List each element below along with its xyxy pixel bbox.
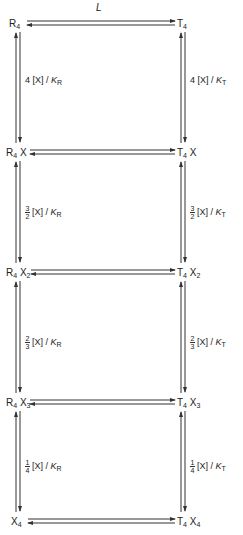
forward-arrow-row-3-arrowhead <box>170 398 176 402</box>
forward-arrow-row-2-arrowhead <box>170 268 176 272</box>
fraction-denominator: 4 <box>25 467 30 474</box>
ligand-concentration: [X] / <box>32 207 51 217</box>
rate-fraction: 23 <box>190 335 195 350</box>
constant-subscript: R <box>56 341 61 348</box>
state-t-0: T4 <box>177 19 187 30</box>
rate-label-t-0: 4 [X] / KT <box>190 75 226 85</box>
state-r-0: R4 <box>9 19 20 30</box>
dissociation-arrow-right-2-arrowhead <box>179 281 183 287</box>
fraction-numerator: 3 <box>25 205 30 213</box>
rate-label-t-1: 32[X] / KT <box>190 205 226 220</box>
fraction-denominator: 3 <box>190 343 195 350</box>
state-t-1: T4 X <box>177 148 196 159</box>
fraction-numerator: 2 <box>190 335 195 343</box>
state-subscript: 4 <box>183 23 187 30</box>
ligand-concentration: [X] / <box>33 75 52 85</box>
forward-arrow-row-1-arrowhead <box>170 148 176 152</box>
forward-arrow-row-4-arrowhead <box>170 517 176 521</box>
state-subscript: 4 <box>183 402 187 409</box>
ligand-count: 2 <box>27 272 31 279</box>
rate-label-r-2: 23[X] / KR <box>25 335 62 350</box>
state-t-2: T4 X2 <box>177 268 200 279</box>
fraction-numerator: 2 <box>25 335 30 343</box>
dissociation-arrow-left-1-arrowhead <box>14 161 18 167</box>
fraction-denominator: 3 <box>25 343 30 350</box>
constant-subscript: R <box>57 79 62 86</box>
ligand-concentration: [X] / <box>32 337 51 347</box>
binding-arrow-right-2-arrowhead <box>183 387 187 393</box>
fraction-numerator: 1 <box>190 459 195 467</box>
state-subscript: 4 <box>183 521 187 528</box>
dissociation-arrow-left-0-arrowhead <box>14 32 18 38</box>
fraction-denominator: 2 <box>25 213 30 220</box>
binding-arrow-left-2-arrowhead <box>18 387 22 393</box>
rate-label-r-3: 14[X] / KR <box>25 459 62 474</box>
rate-fraction: 23 <box>25 335 30 350</box>
ligand-symbol: X <box>187 147 196 158</box>
rate-label-r-1: 32[X] / KR <box>25 205 62 220</box>
state-subscript: 4 <box>183 272 187 279</box>
ligand-symbol: X <box>17 397 26 408</box>
ligand-concentration: [X] / <box>197 337 216 347</box>
ligand-count: 2 <box>196 272 200 279</box>
rate-fraction: 32 <box>190 205 195 220</box>
dissociation-arrow-left-2-arrowhead <box>14 281 18 287</box>
fraction-denominator: 4 <box>190 467 195 474</box>
ligand-concentration: [X] / <box>197 207 216 217</box>
rate-fraction: 14 <box>190 459 195 474</box>
ligand-count: 4 <box>196 521 200 528</box>
ligand-symbol: X <box>17 147 26 158</box>
ligand-concentration: [X] / <box>32 461 51 471</box>
state-r-3: R4 X3 <box>6 398 31 409</box>
binding-arrow-right-3-arrowhead <box>183 506 187 512</box>
ligand-concentration: [X] / <box>197 461 216 471</box>
rate-fraction: 14 <box>25 459 30 474</box>
binding-arrow-left-1-arrowhead <box>18 257 22 263</box>
rate-label-t-2: 23[X] / KT <box>190 335 226 350</box>
ligand-count: 3 <box>196 402 200 409</box>
dissociation-arrow-right-1-arrowhead <box>179 161 183 167</box>
constant-subscript: R <box>56 211 61 218</box>
state-r-4: X4 <box>11 517 22 528</box>
rate-label-t-3: 14[X] / KT <box>190 459 226 474</box>
ligand-count: 4 <box>18 521 22 528</box>
fraction-numerator: 3 <box>190 205 195 213</box>
state-t-4: T4 X4 <box>177 517 200 528</box>
reverse-arrow-row-1-arrowhead <box>29 152 35 156</box>
rate-fraction: 32 <box>25 205 30 220</box>
constant-subscript: T <box>221 341 225 348</box>
state-subscript: 4 <box>13 272 17 279</box>
constant-subscript: T <box>221 465 225 472</box>
state-r-2: R4 X2 <box>6 268 31 279</box>
allosteric-constant-label: L <box>96 3 102 13</box>
forward-arrow-row-0-arrowhead <box>170 19 176 23</box>
state-subscript: 4 <box>13 152 17 159</box>
fraction-numerator: 1 <box>25 459 30 467</box>
binding-arrow-left-0-arrowhead <box>18 137 22 143</box>
dissociation-arrow-right-0-arrowhead <box>179 32 183 38</box>
ligand-symbol: X <box>11 516 18 527</box>
binding-arrow-left-3-arrowhead <box>18 506 22 512</box>
reverse-arrow-row-0-arrowhead <box>26 23 32 27</box>
fraction-denominator: 2 <box>190 213 195 220</box>
rate-coefficient: 4 <box>190 75 198 85</box>
state-subscript: 4 <box>183 152 187 159</box>
constant-subscript: T <box>222 79 226 86</box>
constant-subscript: R <box>56 465 61 472</box>
binding-arrow-right-0-arrowhead <box>183 137 187 143</box>
reverse-arrow-row-4-arrowhead <box>27 521 33 525</box>
rate-coefficient: 4 <box>25 75 33 85</box>
dissociation-arrow-right-3-arrowhead <box>179 411 183 417</box>
ligand-concentration: [X] / <box>198 75 217 85</box>
state-t-3: T4 X3 <box>177 398 200 409</box>
dissociation-arrow-left-3-arrowhead <box>14 411 18 417</box>
state-subscript: 4 <box>16 23 20 30</box>
state-r-1: R4 X <box>6 148 27 159</box>
binding-arrow-right-1-arrowhead <box>183 257 187 263</box>
ligand-count: 3 <box>27 402 31 409</box>
rate-label-r-0: 4 [X] / KR <box>25 75 62 85</box>
ligand-symbol: X <box>17 267 26 278</box>
state-subscript: 4 <box>13 402 17 409</box>
constant-subscript: T <box>221 211 225 218</box>
